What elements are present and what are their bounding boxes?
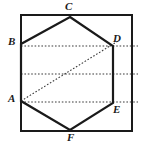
vertex-label-a: A — [8, 93, 15, 104]
vertex-label-b: B — [8, 36, 15, 47]
geometry-canvas — [0, 0, 142, 147]
vertex-label-e: E — [113, 104, 120, 115]
geometry-figure: A B C D E F — [0, 0, 142, 147]
vertex-label-d: D — [113, 33, 121, 44]
dotted-diagonal-ad — [21, 41, 118, 101]
vertex-label-c: C — [65, 1, 72, 12]
vertex-label-f: F — [67, 132, 74, 143]
